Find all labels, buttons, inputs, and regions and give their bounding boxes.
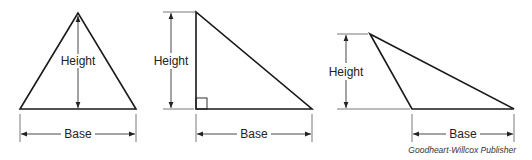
height-label: Height — [329, 65, 364, 79]
base-label: Base — [240, 127, 268, 141]
obtuse-triangle-shape — [370, 34, 514, 109]
right-angle-marker — [196, 98, 207, 109]
acute-triangle: Height Base — [20, 13, 136, 142]
publisher-credit: Goodheart-Willcox Publisher — [408, 145, 517, 155]
triangle-diagram: Height Base Height Base Height Base Goo — [0, 0, 532, 160]
height-label: Height — [154, 54, 189, 68]
base-label: Base — [64, 127, 92, 141]
obtuse-triangle: Height Base — [329, 34, 514, 142]
right-triangle: Height Base — [154, 12, 312, 142]
base-label: Base — [449, 127, 477, 141]
height-label: Height — [61, 54, 96, 68]
right-triangle-shape — [196, 12, 312, 109]
